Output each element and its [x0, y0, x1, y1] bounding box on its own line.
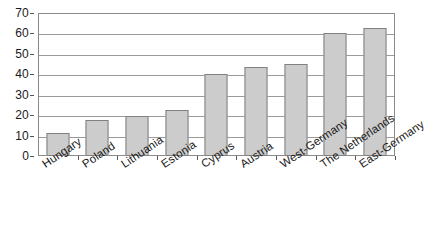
x-axis-labels: HungaryPolandLithuaniaEstoniaCyprusAustr…	[38, 160, 434, 227]
y-axis-tickmark	[30, 13, 34, 14]
y-axis-tickmark	[30, 74, 34, 75]
y-axis-tick-label: 40	[15, 68, 29, 80]
y-axis-tickmark	[30, 136, 34, 137]
bar-slot	[78, 13, 118, 156]
y-axis-tick-label: 70	[15, 7, 29, 19]
y-axis-tick-label: 10	[15, 130, 29, 142]
y-axis: 010203040506070	[0, 13, 34, 156]
y-axis-tick-label: 60	[15, 27, 29, 39]
y-axis-tickmark	[30, 95, 34, 96]
y-axis-tickmark	[30, 115, 34, 116]
y-axis-tick-label: 0	[22, 150, 29, 162]
y-axis-tickmark	[30, 33, 34, 34]
bar-slot	[197, 13, 237, 156]
bar-slot	[236, 13, 276, 156]
bar-chart-figure: 010203040506070 HungaryPolandLithuaniaEs…	[0, 0, 434, 227]
y-axis-tick-label: 30	[15, 89, 29, 101]
y-axis-tick-label: 50	[15, 48, 29, 60]
bar-slot	[38, 13, 78, 156]
y-axis-tickmark	[30, 54, 34, 55]
y-axis-tick-label: 20	[15, 109, 29, 121]
bar-slot	[276, 13, 316, 156]
bar-slot	[117, 13, 157, 156]
bar-series	[38, 13, 395, 156]
bar-slot	[157, 13, 197, 156]
y-axis-tickmark	[30, 156, 34, 157]
